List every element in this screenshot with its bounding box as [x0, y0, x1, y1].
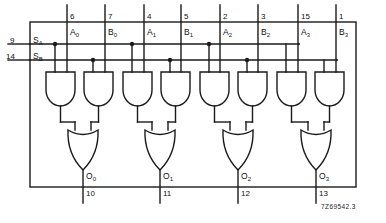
output-label-o1-base: O [163, 171, 170, 181]
and-gate-4 [161, 72, 190, 106]
and-gate-6 [238, 72, 267, 106]
and-gate-7 [277, 72, 306, 106]
pin-number-sb: 14 [6, 53, 15, 61]
input-label-b3: B3 [339, 28, 348, 38]
input-label-a0: A0 [70, 28, 79, 38]
input-label-a2: A2 [223, 28, 232, 38]
output-label-o0-sub: 0 [93, 176, 96, 182]
chip-outline [30, 22, 356, 187]
input-label-sa-sub: A [39, 40, 43, 46]
junction-dot-sa-1 [130, 42, 134, 46]
output-label-o3-base: O [319, 171, 326, 181]
input-label-b1: B1 [184, 28, 193, 38]
input-label-b0-sub: 0 [114, 32, 117, 38]
junction-dot-sb-2 [245, 58, 249, 62]
junction-dot-sa-0 [53, 42, 57, 46]
input-label-sb-sub: B [39, 56, 43, 62]
pin-number-a0: 6 [70, 13, 74, 21]
input-label-a3: A3 [301, 28, 310, 38]
pin-number-b0: 7 [108, 13, 112, 21]
and-gate-1 [46, 72, 75, 106]
junction-dot-sa-2 [207, 42, 211, 46]
output-label-o0: O0 [86, 172, 96, 182]
output-label-o1: O1 [163, 172, 173, 182]
pin-number-o1: 11 [163, 190, 171, 198]
input-label-a3-sub: 3 [307, 32, 310, 38]
input-label-a1-sub: 1 [153, 32, 156, 38]
pin-number-o0: 10 [86, 190, 95, 198]
input-label-a0-sub: 0 [76, 32, 79, 38]
pin-number-o2: 12 [241, 190, 250, 198]
input-label-a2-sub: 2 [229, 32, 232, 38]
pin-number-a2: 2 [223, 13, 227, 21]
or-gate-3 [223, 130, 253, 170]
pin-number-b1: 5 [184, 13, 188, 21]
input-label-b1-sub: 1 [190, 32, 193, 38]
output-label-o2: O2 [241, 172, 251, 182]
output-label-o1-sub: 1 [170, 176, 173, 182]
and-gate-8 [315, 72, 344, 106]
input-label-b2: B2 [261, 28, 270, 38]
output-label-o3-sub: 3 [326, 176, 329, 182]
and-gate-2 [84, 72, 113, 106]
or-gate-2 [145, 130, 175, 170]
output-label-o3: O3 [319, 172, 329, 182]
output-label-o2-base: O [241, 171, 248, 181]
and-gate-3 [123, 72, 152, 106]
junction-dot-sb-1 [168, 58, 172, 62]
input-label-a1: A1 [147, 28, 156, 38]
pin-number-a1: 4 [147, 13, 151, 21]
output-label-o0-base: O [86, 171, 93, 181]
or-gate-4 [301, 130, 331, 170]
circuit-diagram: 9 14 SA SB 6 7 4 5 2 3 15 1 A0 B0 A1 B1 … [0, 0, 386, 223]
output-label-o2-sub: 2 [248, 176, 251, 182]
pin-number-a3: 15 [301, 13, 310, 21]
input-label-b2-sub: 2 [267, 32, 270, 38]
input-label-sb: SB [33, 52, 43, 62]
pin-number-o3: 13 [319, 190, 328, 198]
input-label-b3-sub: 3 [345, 32, 348, 38]
input-label-sa: SA [33, 36, 43, 46]
junction-dot-sb-0 [91, 58, 95, 62]
input-label-b0: B0 [108, 28, 117, 38]
pin-number-b3: 1 [339, 13, 343, 21]
pin-number-b2: 3 [261, 13, 265, 21]
pin-number-sa: 9 [10, 37, 14, 45]
figure-caption: 7Z69542.3 [321, 203, 356, 210]
or-gate-1 [68, 130, 98, 170]
and-gate-5 [200, 72, 229, 106]
